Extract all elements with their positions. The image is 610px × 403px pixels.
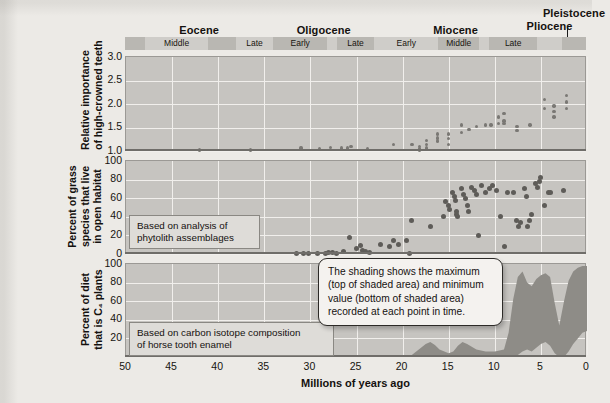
- data-point: [436, 139, 439, 142]
- data-point: [476, 233, 481, 238]
- data-point: [498, 214, 503, 219]
- data-point: [474, 192, 479, 197]
- ytick-label: 60: [110, 192, 122, 203]
- gridline: [126, 81, 585, 82]
- data-point: [455, 214, 460, 219]
- stage-segment-middle: Middle: [438, 37, 479, 50]
- xtick-label: 35: [250, 360, 276, 372]
- data-point: [515, 129, 518, 132]
- stage-segment-early: Early: [374, 37, 439, 50]
- ytick-label: 20: [110, 332, 122, 343]
- xtick-label: 20: [389, 360, 415, 372]
- ytick-label: 100: [104, 258, 122, 269]
- data-point: [543, 98, 546, 101]
- data-point: [460, 131, 463, 134]
- data-point: [425, 139, 428, 142]
- xtick-label: 0: [573, 360, 599, 372]
- ytick-label: 2.0: [107, 98, 122, 109]
- vertical-gridline: [264, 161, 265, 252]
- data-point: [489, 123, 492, 126]
- data-point: [349, 145, 352, 148]
- callout-c4-diet: Based on carbon isotope composition of h…: [129, 322, 334, 356]
- data-point: [387, 244, 392, 249]
- stage-segment-middle: Middle: [145, 37, 208, 50]
- data-point: [465, 203, 470, 208]
- vertical-gridline: [495, 57, 496, 149]
- ytick-label: 40: [110, 313, 122, 324]
- data-point: [447, 207, 452, 212]
- data-point: [552, 110, 555, 113]
- xtick-label: 50: [112, 360, 138, 372]
- stage-segment-late: Late: [489, 37, 537, 50]
- data-point: [463, 196, 468, 201]
- stage-segment: [208, 37, 236, 50]
- data-point: [466, 209, 471, 214]
- axis-baseline-grass-open-habitat: [125, 252, 586, 254]
- gridline: [126, 198, 585, 199]
- data-point: [347, 235, 352, 240]
- vertical-gridline: [264, 57, 265, 149]
- xtick-label: 15: [435, 360, 461, 372]
- shading-note-callout: The shading shows the maximum (top of sh…: [318, 258, 503, 326]
- stage-segment: [125, 37, 145, 50]
- ytick-label: 80: [110, 173, 122, 184]
- vertical-gridline: [587, 161, 588, 252]
- data-point: [528, 123, 531, 126]
- gridline: [126, 151, 585, 152]
- vertical-gridline: [495, 161, 496, 252]
- data-point: [391, 238, 396, 243]
- data-point: [535, 185, 540, 190]
- xtick-label: 10: [481, 360, 507, 372]
- xtick-label: 30: [296, 360, 322, 372]
- stage-segment: [537, 37, 562, 50]
- epoch-label-pliocene: Pliocene: [497, 20, 602, 32]
- ytick-label: 100: [104, 155, 122, 166]
- data-point: [552, 115, 555, 118]
- ytick-label: 2.5: [107, 74, 122, 85]
- data-point: [525, 224, 530, 229]
- yaxis-title-c4-diet: Percent of dietthat is C₄ plants: [79, 263, 104, 356]
- data-point: [497, 115, 500, 118]
- data-point: [565, 94, 568, 97]
- vertical-gridline: [310, 57, 311, 149]
- data-point: [542, 203, 547, 208]
- data-point: [505, 190, 510, 195]
- data-point: [479, 183, 484, 188]
- xaxis-title: Millions of years ago: [125, 377, 586, 389]
- data-point: [548, 190, 553, 195]
- data-point: [497, 122, 500, 125]
- yaxis-title-grass-open-habitat: Percent of grassspecies that livein open…: [66, 160, 104, 253]
- xtick-label: 40: [204, 360, 230, 372]
- data-point: [524, 194, 529, 199]
- data-point: [467, 128, 470, 131]
- vertical-gridline: [357, 161, 358, 252]
- vertical-gridline: [172, 57, 173, 149]
- data-point: [428, 224, 433, 229]
- data-point: [410, 143, 413, 146]
- xtick-label: 45: [158, 360, 184, 372]
- data-point: [502, 122, 505, 125]
- vertical-gridline: [587, 57, 588, 149]
- geologic-stage-bar: MiddleLateEarlyLateEarlyMiddleLate: [125, 37, 586, 50]
- data-point: [494, 188, 499, 193]
- ytick-label: 1.5: [107, 121, 122, 132]
- panel-hypsodonty: [125, 56, 586, 150]
- stage-segment-late: Late: [337, 37, 374, 50]
- gridline: [126, 180, 585, 181]
- data-point: [565, 107, 568, 110]
- data-point: [511, 190, 516, 195]
- data-point: [460, 123, 463, 126]
- stage-segment: [327, 37, 337, 50]
- vertical-gridline: [218, 57, 219, 149]
- data-point: [459, 186, 464, 191]
- data-point: [409, 218, 414, 223]
- stage-segment-early: Early: [273, 37, 326, 50]
- ytick-label: 60: [110, 295, 122, 306]
- yaxis-title-hypsodonty: Relative importanceof high-crowned teeth: [79, 56, 104, 150]
- data-point: [522, 186, 527, 191]
- data-point: [441, 214, 446, 219]
- vertical-gridline: [357, 57, 358, 149]
- epoch-label-pleistocene: Pleistocene: [522, 7, 610, 19]
- data-point: [518, 220, 523, 225]
- data-point: [552, 104, 555, 107]
